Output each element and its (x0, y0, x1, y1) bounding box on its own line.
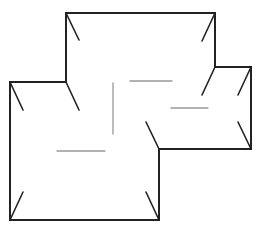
interior-lines (57, 81, 208, 151)
corner-tick-9 (66, 82, 79, 110)
corner-tick-0 (66, 13, 79, 40)
corner-tick-1 (202, 13, 215, 41)
corner-tick-8 (10, 82, 23, 110)
corner-tick-2 (202, 67, 215, 95)
outline-polygon (10, 13, 251, 220)
corner-tick-3 (238, 67, 251, 95)
corner-tick-4 (238, 122, 251, 149)
corner-tick-7 (10, 192, 23, 220)
corner-tick-6 (146, 192, 159, 220)
corner-tick-5 (146, 122, 159, 149)
floor-plan-diagram (0, 0, 257, 232)
